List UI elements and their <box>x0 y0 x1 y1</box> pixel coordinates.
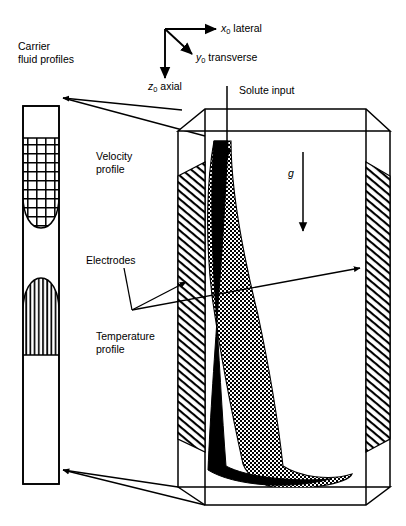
electrodes-label: Electrodes <box>86 254 136 267</box>
electrode-leader-stem <box>124 268 132 310</box>
carrier-fluid-caption: Carrier fluid profiles <box>18 40 74 65</box>
carrier-fluid-panel <box>23 106 59 484</box>
box-bottom-face <box>178 487 390 505</box>
diagram-artwork <box>0 0 406 526</box>
y-axis-label: y0 transverse <box>196 51 257 65</box>
solute-input-label: Solute input <box>239 84 294 97</box>
y-axis-arrow-icon <box>165 29 192 54</box>
temperature-profile-label: Temperature profile <box>96 330 155 355</box>
connector-top-icon <box>63 98 182 110</box>
box-top-face <box>178 109 390 131</box>
figure-canvas: x0 lateral y0 transverse z0 axial Carrie… <box>0 0 406 526</box>
electrode-right <box>366 162 390 452</box>
solute-plume <box>208 141 352 488</box>
plume-shell-shape <box>208 141 352 488</box>
temperature-profile-shape <box>23 278 59 355</box>
velocity-profile-label: Velocity profile <box>96 150 132 175</box>
z-axis-label: z0 axial <box>148 80 182 94</box>
electrode-left <box>178 162 205 452</box>
gravity-label: g <box>288 167 294 180</box>
x-axis-label: x0 lateral <box>221 22 262 36</box>
velocity-profile-shape <box>23 138 59 228</box>
